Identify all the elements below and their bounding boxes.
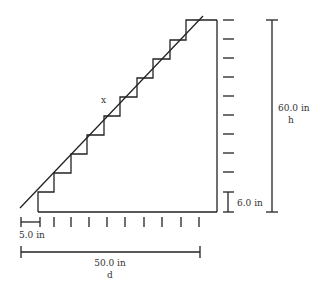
tread-dimension-bracket — [21, 217, 40, 227]
hypotenuse-label: x — [101, 95, 106, 105]
riser-height-label: 6.0 in — [237, 198, 263, 208]
tread-depth-label: 5.0 in — [19, 230, 45, 240]
total-height-var-label: h — [288, 115, 294, 125]
tread-ticks — [54, 217, 199, 227]
riser-dimension-bracket — [223, 192, 234, 212]
stair-profile — [38, 20, 217, 212]
staircase-diagram: x 6.0 in 60.0 in h 5.0 in 50.0 in d — [0, 0, 320, 293]
riser-ticks — [223, 20, 234, 172]
total-depth-value-label: 50.0 in — [94, 258, 126, 268]
total-height-value-label: 60.0 in — [278, 103, 310, 113]
total-height-dimension — [266, 20, 278, 212]
total-depth-dimension — [21, 246, 200, 258]
total-depth-var-label: d — [107, 270, 113, 280]
hypotenuse-line — [20, 16, 203, 208]
